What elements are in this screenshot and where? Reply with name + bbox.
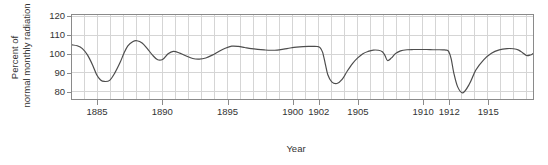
plot-area [71,14,534,100]
x-axis-label-container: Year [0,143,548,154]
y-axis-tick: 80 [37,86,65,97]
x-axis-tick-mark [228,100,229,105]
plot-svg [72,15,533,99]
radiation-chart-figure: Percent ofnormal monthly radiation 12011… [0,0,548,165]
x-axis-tick-mark [319,100,320,105]
x-axis-tick: 1890 [142,106,182,117]
x-axis-tick: 1885 [77,106,117,117]
x-axis-tick-mark [162,100,163,105]
y-axis-tick: 100 [37,48,65,59]
gridlines [72,15,533,99]
x-axis-tick: 1915 [468,106,508,117]
x-axis-tick: 1905 [338,106,378,117]
x-axis-tick: 1902 [299,106,339,117]
x-axis-tick-mark [358,100,359,105]
x-axis-tick-mark [449,100,450,105]
y-axis-label: Percent ofnormal monthly radiation [9,8,32,108]
x-axis-tick-mark [423,100,424,105]
x-axis-tick-mark [488,100,489,105]
data-line [72,41,533,93]
y-axis-tick: 90 [37,67,65,78]
y-axis-label-line1: Percent of [9,36,20,79]
x-axis-tick: 1912 [429,106,469,117]
y-axis-label-container: Percent ofnormal monthly radiation [0,0,40,120]
data-series-layer [72,41,533,93]
y-axis-tick: 110 [37,29,65,40]
y-axis-tick: 120 [37,10,65,21]
x-axis-tick-mark [97,100,98,105]
x-axis-tick-mark [293,100,294,105]
x-axis-tick: 1895 [208,106,248,117]
x-axis-label: Year [286,143,305,154]
y-axis-label-line2: normal monthly radiation [20,3,31,107]
